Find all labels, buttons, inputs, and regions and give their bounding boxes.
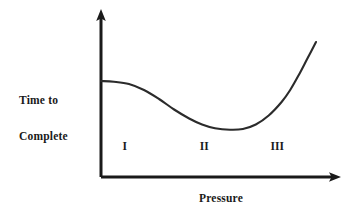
region-label-iii: III <box>271 140 284 153</box>
x-axis-label: Pressure <box>0 192 352 204</box>
chart-figure: Time to Complete Pressure I II III <box>0 0 352 216</box>
region-label-ii: II <box>200 140 209 153</box>
y-axis-label: Time to Complete <box>19 70 68 166</box>
y-axis-label-line-1: Time to <box>19 94 68 106</box>
data-curve-time-to-complete <box>101 42 316 130</box>
region-label-i: I <box>122 140 126 153</box>
y-axis-label-line-2: Complete <box>19 130 68 142</box>
